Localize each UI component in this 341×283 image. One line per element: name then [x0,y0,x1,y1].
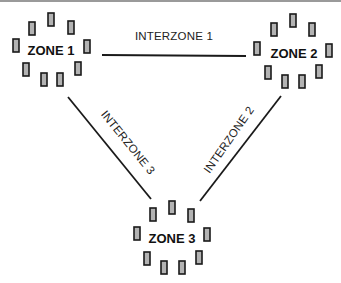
node-icon [84,40,90,53]
zone-1-label: ZONE 1 [28,43,75,58]
interzone-1-label: INTERZONE 1 [135,30,213,42]
node-icon [271,23,277,36]
node-icon [23,63,29,76]
node-icon [196,251,202,264]
node-icon [144,252,150,265]
node-icon [134,227,140,240]
node-icon [290,14,296,27]
node-icon [150,208,156,221]
zone-diagram: INTERZONE 1 INTERZONE 3 INTERZONE 2 ZONE… [0,0,341,283]
node-icon [68,21,74,34]
node-icon [316,65,322,78]
node-icon [48,13,54,26]
node-icon [179,261,185,274]
zone-2-label: ZONE 2 [271,46,318,61]
node-icon [57,73,63,86]
zone-3-cluster: ZONE 3 [134,201,210,274]
node-icon [13,39,19,52]
node-icon [326,44,332,57]
interzone-3-label: INTERZONE 3 [99,108,158,176]
node-icon [169,201,175,214]
node-icon [309,23,315,36]
node-icon [75,62,81,75]
node-icon [254,42,260,55]
node-icon [282,75,288,88]
node-icon [299,75,305,88]
node-icon [204,228,210,241]
node-icon [265,66,271,79]
node-icon [188,209,194,222]
node-icon [29,22,35,35]
interzone-1-line [102,55,246,56]
zone-2-cluster: ZONE 2 [254,14,332,88]
node-icon [161,261,167,274]
zone-3-label: ZONE 3 [149,231,196,246]
zone-1-cluster: ZONE 1 [13,13,90,86]
node-icon [41,73,47,86]
